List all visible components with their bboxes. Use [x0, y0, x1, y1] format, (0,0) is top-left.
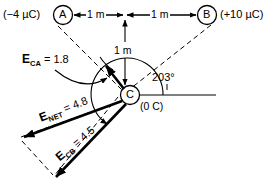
vector-eca: [106, 66, 124, 89]
dimension-label-right: 1 m: [150, 9, 170, 20]
vector-symbol-eca: E: [22, 52, 30, 66]
parallelogram-side-lower: [22, 141, 53, 175]
vector-subscript-eca: CA: [30, 59, 41, 68]
dimension-label-vertical: 1 m: [113, 45, 133, 56]
node-label-c: C: [126, 89, 134, 100]
diagram-canvas: [0, 0, 270, 190]
node-label-a: A: [59, 9, 66, 20]
charge-label-a: (−4 µC): [3, 9, 40, 20]
vector-value-eca: = 1.8: [44, 53, 69, 65]
vector-label-eca: ECA = 1.8: [22, 53, 69, 68]
dimension-label-left: 1 m: [86, 9, 106, 20]
charge-label-b: (+10 µC): [220, 9, 263, 20]
electric-field-vector-diagram: (−4 µC) A B (+10 µC) C (0 C) 1 m 1 m 1 m…: [0, 0, 270, 190]
angle-label-203: 203°: [152, 72, 175, 83]
charge-label-c: (0 C): [140, 101, 163, 112]
node-label-b: B: [203, 9, 210, 20]
